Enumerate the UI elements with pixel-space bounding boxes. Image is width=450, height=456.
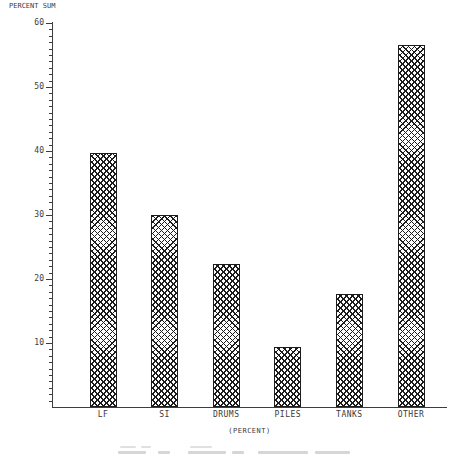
bar-chart: PERCENT SUM 102030405060 LFSIDRUMSPILEST… [0, 0, 450, 456]
y-minor-tick [49, 145, 52, 146]
bar-drums [213, 264, 240, 407]
y-tick-label: 60 [22, 19, 44, 27]
y-minor-tick [49, 247, 52, 248]
y-tick-label: 40 [22, 147, 44, 155]
y-tick-label: 10 [22, 339, 44, 347]
bar-other [398, 45, 425, 407]
y-minor-tick [49, 202, 52, 203]
y-minor-tick [49, 388, 52, 389]
y-minor-tick [49, 260, 52, 261]
y-minor-tick [49, 253, 52, 254]
bar-category-label: SI [130, 410, 200, 419]
bar-lf [90, 153, 117, 407]
y-minor-tick [49, 119, 52, 120]
y-minor-tick [49, 209, 52, 210]
y-minor-tick [49, 311, 52, 312]
y-minor-tick [49, 177, 52, 178]
y-minor-tick [49, 381, 52, 382]
y-minor-tick [49, 401, 52, 402]
bar-category-label: DRUMS [191, 410, 261, 419]
y-minor-tick [49, 324, 52, 325]
y-minor-tick [49, 330, 52, 331]
bar-piles [274, 347, 301, 407]
y-minor-tick [49, 183, 52, 184]
y-minor-tick [49, 100, 52, 101]
y-minor-tick [49, 29, 52, 30]
y-minor-tick [49, 157, 52, 158]
y-minor-tick [49, 337, 52, 338]
bar-si [151, 215, 178, 407]
y-minor-tick [49, 369, 52, 370]
y-minor-tick [49, 164, 52, 165]
y-minor-tick [49, 298, 52, 299]
bar-tanks [336, 294, 363, 407]
y-minor-tick [49, 221, 52, 222]
y-major-tick [46, 215, 52, 216]
y-minor-tick [49, 68, 52, 69]
y-major-tick [46, 151, 52, 152]
y-minor-tick [49, 189, 52, 190]
x-axis-line [52, 407, 447, 408]
y-minor-tick [49, 317, 52, 318]
cut-off-caption-fragment [190, 446, 212, 448]
bar-category-label: LF [68, 410, 138, 419]
y-minor-tick [49, 196, 52, 197]
cut-off-caption-fragment [158, 451, 170, 454]
y-minor-tick [49, 49, 52, 50]
y-axis-title: PERCENT SUM [9, 2, 55, 10]
bar-category-label: PILES [253, 410, 323, 419]
y-minor-tick [49, 362, 52, 363]
y-minor-tick [49, 170, 52, 171]
y-minor-tick [49, 93, 52, 94]
x-axis-label: (PERCENT) [52, 427, 447, 435]
y-minor-tick [49, 234, 52, 235]
y-major-tick [46, 87, 52, 88]
y-minor-tick [49, 55, 52, 56]
y-minor-tick [49, 349, 52, 350]
y-minor-tick [49, 81, 52, 82]
y-minor-tick [49, 241, 52, 242]
y-minor-tick [49, 273, 52, 274]
cut-off-caption-fragment [232, 451, 244, 454]
y-minor-tick [49, 375, 52, 376]
cut-off-caption-fragment [118, 451, 146, 454]
y-minor-tick [49, 394, 52, 395]
y-minor-tick [49, 266, 52, 267]
y-minor-tick [49, 356, 52, 357]
y-minor-tick [49, 132, 52, 133]
cut-off-caption-fragment [258, 451, 308, 454]
y-minor-tick [49, 228, 52, 229]
y-tick-label: 20 [22, 275, 44, 283]
y-minor-tick [49, 42, 52, 43]
y-minor-tick [49, 113, 52, 114]
cut-off-caption-fragment [188, 451, 226, 454]
y-minor-tick [49, 61, 52, 62]
y-axis-line [52, 22, 53, 407]
cut-off-caption-fragment [141, 446, 151, 448]
y-major-tick [46, 23, 52, 24]
y-minor-tick [49, 106, 52, 107]
cut-off-caption-fragment [120, 446, 136, 448]
y-minor-tick [49, 292, 52, 293]
y-minor-tick [49, 305, 52, 306]
bar-category-label: TANKS [314, 410, 384, 419]
y-minor-tick [49, 285, 52, 286]
y-tick-label: 30 [22, 211, 44, 219]
y-major-tick [46, 343, 52, 344]
bar-category-label: OTHER [376, 410, 446, 419]
y-minor-tick [49, 138, 52, 139]
y-minor-tick [49, 74, 52, 75]
cut-off-caption-fragment [315, 451, 350, 454]
y-minor-tick [49, 36, 52, 37]
y-minor-tick [49, 125, 52, 126]
y-major-tick [46, 279, 52, 280]
y-tick-label: 50 [22, 83, 44, 91]
